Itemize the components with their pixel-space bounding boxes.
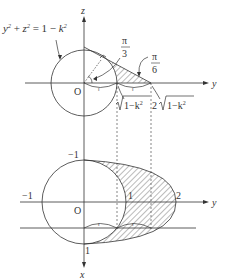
- arc-segment-1: [84, 83, 117, 88]
- tick-1-y: 1: [128, 190, 133, 201]
- sqrt-label: 1−k2: [116, 96, 150, 111]
- z-axis-label-top: z: [80, 5, 85, 16]
- arc-bottom-1: [84, 224, 117, 229]
- top-diagram: y2 + z2 = 1 − k2 z y O π 3 π 6 1−k2 2 1−…: [2, 5, 217, 230]
- pi3-arrow-icon: [93, 76, 97, 81]
- tick-1-x: 1: [85, 245, 90, 256]
- pi6-numerator: π: [152, 51, 157, 62]
- svg-text:2: 2: [152, 100, 157, 111]
- tick-2-y: 2: [176, 190, 181, 201]
- svg-text:1−k2: 1−k2: [124, 100, 143, 111]
- tick-neg1-top: −1: [68, 149, 79, 160]
- y-axis-label-bottom: y: [211, 197, 217, 208]
- x-axis-arrow-icon: [82, 262, 86, 268]
- bottom-diagram: ‖ ‖ −1 −1 O 1 2 1 y x: [20, 140, 217, 280]
- pi6-pointer: [139, 57, 148, 74]
- equation-label: y2 + z2 = 1 − k2: [2, 22, 67, 34]
- equal-tick-3: ‖: [98, 222, 100, 227]
- radius-dotted: [84, 60, 101, 83]
- cross-section-diagram: y2 + z2 = 1 − k2 z y O π 3 π 6 1−k2 2 1−…: [0, 0, 226, 280]
- pi3-denominator: 3: [122, 48, 127, 59]
- y-axis-label-top: y: [211, 78, 217, 89]
- z-axis-arrow-icon: [82, 16, 86, 22]
- y-axis-arrow-icon: [203, 81, 209, 85]
- origin-label-bottom: O: [74, 205, 81, 216]
- pi3-numerator: π: [122, 35, 127, 46]
- angle-arc-origin: [88, 76, 92, 83]
- x-axis-label: x: [79, 269, 85, 280]
- tick-neg1-left: −1: [22, 190, 33, 201]
- arc-segment-2: [117, 83, 151, 88]
- y-axis-arrow-bottom-icon: [203, 200, 209, 204]
- 2sqrt-label: 2 1−k2: [152, 96, 194, 111]
- origin-label-top: O: [74, 86, 81, 97]
- svg-text:1−k2: 1−k2: [167, 100, 186, 111]
- 2sqrt-pointer: [152, 86, 160, 99]
- pi6-denominator: 6: [152, 64, 157, 75]
